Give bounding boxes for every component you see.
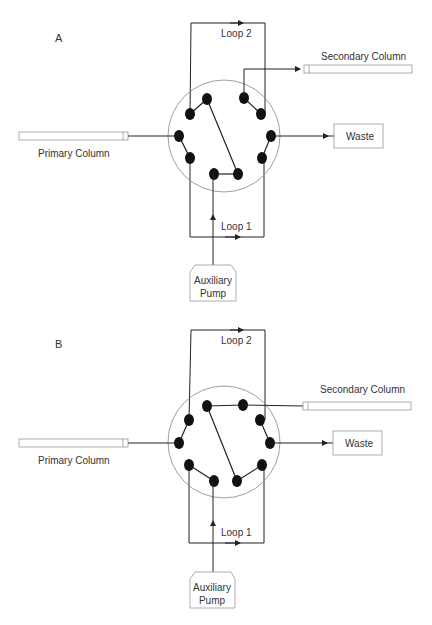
secondary-column-b bbox=[243, 402, 411, 410]
primary-column-b bbox=[19, 439, 179, 447]
loop-2-label-a: Loop 2 bbox=[221, 28, 252, 39]
primary-column-label-b: Primary Column bbox=[38, 455, 110, 466]
valve-switching-diagram: A Loop 2 Loop 1 bbox=[0, 0, 432, 625]
panel-label-b: B bbox=[55, 338, 62, 350]
pump-label-line2-a: Pump bbox=[200, 288, 227, 299]
panel-a: A Loop 2 Loop 1 bbox=[19, 23, 412, 301]
primary-column-label-a: Primary Column bbox=[38, 148, 110, 159]
loop-1-label-b: Loop 1 bbox=[221, 527, 252, 538]
loop-1-label-a: Loop 1 bbox=[221, 221, 252, 232]
primary-column-a bbox=[19, 132, 179, 140]
pump-label-line1-b: Auxiliary bbox=[193, 582, 231, 593]
valve-body-b bbox=[168, 386, 280, 498]
valve-body-a bbox=[168, 80, 280, 192]
valve-ports-a bbox=[174, 92, 276, 180]
pump-label-line1-a: Auxiliary bbox=[194, 275, 232, 286]
waste-label-a: Waste bbox=[346, 131, 374, 142]
secondary-column-label-a: Secondary Column bbox=[321, 51, 406, 62]
panel-b: B Loop 2 Loop 1 bbox=[19, 330, 411, 608]
waste-label-b: Waste bbox=[345, 438, 373, 449]
panel-label-a: A bbox=[55, 32, 63, 44]
loop-2-label-b: Loop 2 bbox=[221, 335, 252, 346]
pump-label-line2-b: Pump bbox=[199, 595, 226, 606]
secondary-column-label-b: Secondary Column bbox=[320, 384, 405, 395]
secondary-column-a bbox=[244, 65, 412, 98]
